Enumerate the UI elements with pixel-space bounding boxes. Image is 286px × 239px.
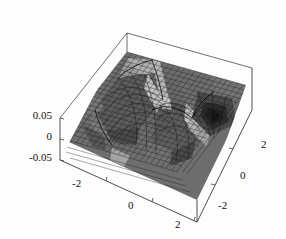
- x-axis-tick-0: 0: [128, 200, 134, 211]
- x-axis-tick-2: 2: [175, 219, 181, 230]
- z-axis-tick-neg0.05: -0.05: [0, 152, 52, 163]
- surface-mesh: [60, 52, 252, 200]
- x-axis-tick-neg2: -2: [72, 178, 81, 189]
- y-axis-tick-neg2: -2: [218, 200, 227, 211]
- y-axis-tick-0: 0: [240, 170, 246, 181]
- z-axis-tick-0: 0: [6, 131, 52, 142]
- y-axis-tick-2: 2: [261, 139, 267, 150]
- z-axis-tick-0.05: 0.05: [6, 110, 52, 121]
- surface-plot-figure: 0.05 0 -0.05 -2 0 2 2 0 -2: [0, 0, 286, 239]
